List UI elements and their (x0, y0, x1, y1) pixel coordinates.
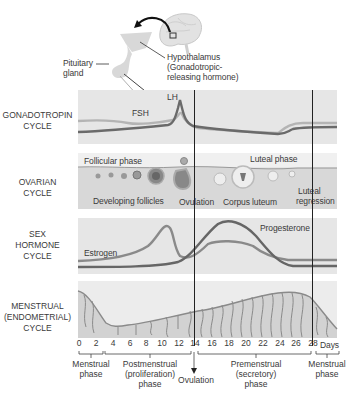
row-label-gonadotropin: GONADOTROPIN CYCLE (0, 110, 75, 132)
day-axis: 0 2 4 6 8 10 12 14 16 18 20 22 24 26 28 … (0, 338, 350, 352)
hypothalamus-shape (120, 32, 152, 52)
tick-2: 2 (94, 338, 99, 348)
tick-26: 26 (291, 338, 300, 348)
row-label-menstrual: MENSTRUAL (ENDOMETRIAL) CYCLE (0, 301, 75, 334)
tick-8: 8 (144, 338, 149, 348)
tick-28: 28 (308, 338, 317, 348)
phase-premenstrual: Premenstrual (secretory) phase (231, 359, 282, 389)
row-label-ovarian: OVARIAN CYCLE (0, 177, 75, 199)
tick-12: 12 (174, 338, 183, 348)
gonadotropin-panel: LH FSH (78, 90, 337, 144)
brain-icon (160, 14, 202, 54)
follicular-phase-label: Follicular phase (84, 156, 142, 166)
tick-20: 20 (241, 338, 250, 348)
hypothalamus-label: Hypothalamus (Gonadotropic- releasing ho… (167, 52, 238, 82)
ovulation-divider-line (194, 90, 195, 346)
row-label-sex-hormone: SEX HORMONE CYCLE (0, 229, 75, 262)
ovarian-panel: Follicular phase Luteal phase Developing… (78, 153, 337, 209)
progesterone-label: Progesterone (260, 223, 310, 233)
phase-ovulation: Ovulation (178, 375, 214, 385)
developing-follicles-label: Developing follicles (93, 196, 164, 206)
gonadotropin-chart (78, 90, 337, 144)
pituitary-label: Pituitary gland (63, 58, 93, 78)
fsh-label: FSH (132, 108, 149, 118)
header-illustration: Pituitary gland Hypothalamus (Gonadotrop… (0, 0, 350, 88)
sex-hormone-panel: Estrogen Progesterone (78, 218, 337, 274)
tick-18: 18 (224, 338, 233, 348)
tick-16: 16 (207, 338, 216, 348)
endometrium-chart (78, 281, 337, 338)
lh-label: LH (167, 92, 178, 102)
estrogen-label: Estrogen (84, 248, 117, 258)
tick-22: 22 (258, 338, 267, 348)
tick-24: 24 (275, 338, 284, 348)
phase-postmenstrual: Postmenstrual (proliferation) phase (123, 359, 177, 389)
ovulation-arrow-icon (191, 368, 197, 374)
luteal-regression-label: Luteal regression (298, 186, 335, 206)
tick-4: 4 (111, 338, 116, 348)
tick-6: 6 (128, 338, 133, 348)
menstrual-panel (78, 281, 337, 338)
corpus-luteum-label: Corpus luteum (223, 197, 277, 207)
tick-0: 0 (77, 338, 82, 348)
tick-10: 10 (157, 338, 166, 348)
phase-menstrual-start: Menstrual phase (72, 359, 109, 379)
cycle-end-divider-line (312, 90, 313, 346)
ovulation-label: Ovulation (179, 197, 214, 207)
luteal-phase-label: Luteal phase (250, 154, 297, 164)
tick-14: 14 (190, 338, 199, 348)
phase-menstrual-end: Menstrual phase (308, 359, 345, 379)
days-unit-label: Days (320, 340, 339, 350)
